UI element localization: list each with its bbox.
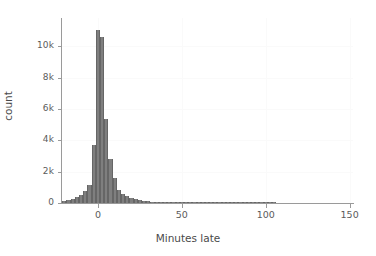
y-tick-label: 0 <box>48 197 54 207</box>
y-tick-label: 4k <box>43 134 54 144</box>
x-axis-title: Minutes late <box>0 232 376 244</box>
gridline-vertical <box>350 18 351 203</box>
y-tick-mark <box>58 172 62 173</box>
x-tick-label: 100 <box>257 209 275 220</box>
x-tick-mark <box>182 204 183 208</box>
y-axis-spine <box>61 18 62 204</box>
y-tick-mark <box>58 78 62 79</box>
y-tick-mark <box>58 46 62 47</box>
gridline-horizontal <box>61 46 353 47</box>
x-tick-label: 50 <box>176 209 188 220</box>
y-tick-mark <box>58 140 62 141</box>
gridline-vertical <box>266 18 267 203</box>
plot-area <box>61 18 353 203</box>
y-tick-mark <box>58 109 62 110</box>
y-axis-title: count <box>2 76 14 136</box>
x-tick-mark <box>98 204 99 208</box>
histogram-figure: 02k4k6k8k10k 050100150 Minutes late coun… <box>0 0 376 256</box>
gridline-vertical <box>182 18 183 203</box>
x-tick-mark <box>266 204 267 208</box>
x-tick-label: 150 <box>341 209 359 220</box>
y-tick-label: 2k <box>43 166 54 176</box>
x-tick-label: 0 <box>95 209 101 220</box>
y-tick-mark <box>58 203 62 204</box>
y-tick-label: 6k <box>43 103 54 113</box>
gridline-horizontal <box>61 78 353 79</box>
y-tick-label: 8k <box>43 72 54 82</box>
x-tick-mark <box>350 204 351 208</box>
gridline-horizontal <box>61 109 353 110</box>
y-tick-label: 10k <box>37 40 54 50</box>
x-axis-spine <box>61 203 354 204</box>
